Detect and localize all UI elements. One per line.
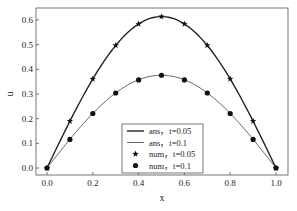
star-marker xyxy=(67,118,73,124)
legend-label-ans-t005: ans，t=0.05 xyxy=(149,126,191,136)
x-tick-label: 1.0 xyxy=(270,178,282,188)
circle-marker xyxy=(113,90,118,95)
x-tick-label: 0.8 xyxy=(225,178,237,188)
y-tick-label: 0.0 xyxy=(22,163,34,173)
x-tick-label: 0.6 xyxy=(179,178,191,188)
legend-label-num-t01: num，t=0.1 xyxy=(149,161,191,171)
star-marker xyxy=(250,118,256,124)
circle-marker xyxy=(273,165,278,170)
circle-marker xyxy=(228,111,233,116)
x-tick-label: 0.2 xyxy=(87,178,98,188)
circle-marker xyxy=(182,77,187,82)
y-tick-label: 0.5 xyxy=(22,40,34,50)
legend-label-ans-t01: ans，t=0.1 xyxy=(149,138,187,148)
y-tick-label: 0.2 xyxy=(22,114,33,124)
star-marker xyxy=(158,13,164,19)
x-axis-ticks: 0.00.20.40.60.81.0 xyxy=(41,172,282,188)
circle-marker xyxy=(67,137,72,142)
y-tick-label: 0.6 xyxy=(22,15,34,25)
legend-label-num-t005: num，t=0.05 xyxy=(149,149,195,159)
circle-marker xyxy=(251,137,256,142)
circle-marker xyxy=(159,73,164,78)
x-tick-label: 0.0 xyxy=(41,178,53,188)
y-tick-label: 0.1 xyxy=(22,138,33,148)
y-tick-label: 0.4 xyxy=(22,64,34,74)
x-tick-label: 0.4 xyxy=(133,178,145,188)
circle-marker xyxy=(205,90,210,95)
circle-marker xyxy=(44,165,49,170)
circle-marker xyxy=(90,111,95,116)
y-tick-label: 0.3 xyxy=(22,89,34,99)
circle-marker-icon xyxy=(133,163,138,168)
y-axis-label: u xyxy=(4,92,15,97)
x-axis-label: x xyxy=(160,192,165,203)
circle-marker xyxy=(136,77,141,82)
legend: ans，t=0.05 ans，t=0.1 num，t=0.05 num，t=0.… xyxy=(122,124,203,173)
line-chart: 0.00.20.40.60.81.0 0.00.10.20.30.40.50.6… xyxy=(0,0,297,211)
